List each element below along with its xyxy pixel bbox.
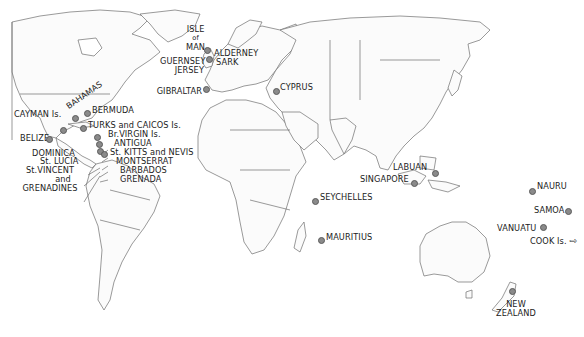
label-vanuatu: VANUATU [497,224,536,233]
label-grenada: GRENADA [120,175,161,184]
label-singapore: SINGAPORE [360,175,409,184]
label-samoa: SAMOA [534,206,564,215]
marker-belize[interactable] [46,136,53,143]
label-sark: SARK [216,58,238,67]
marker-nauru[interactable] [529,188,536,195]
label-seychelles: SEYCHELLES [320,193,372,202]
label-line: ISLE [186,25,205,34]
label-gibraltar: GIBRALTAR [150,87,202,96]
cook-label-text: COOK Is. [530,236,567,246]
label-nauru: NAURU [537,182,567,191]
label-cyprus: CYPRUS [280,83,313,92]
marker-gibraltar[interactable] [203,86,210,93]
marker-singapore[interactable] [411,180,418,187]
marker-samoa[interactable] [565,208,572,215]
marker-cyprus[interactable] [273,88,280,95]
label-labuan: LABUAN [393,163,427,172]
marker-bahamas[interactable] [72,115,79,122]
marker-bermuda[interactable] [84,110,91,117]
marker-channel-islands[interactable] [206,56,213,63]
label-new-zealand: NEW ZEALAND [496,300,536,318]
marker-mauritius[interactable] [318,237,325,244]
label-bermuda: BERMUDA [92,106,134,115]
label-mauritius: MAURITIUS [326,233,372,242]
label-line: GRENADINES [22,184,78,193]
marker-seychelles[interactable] [312,198,319,205]
marker-vanuatu[interactable] [540,224,547,231]
marker-montserrat[interactable] [101,151,108,158]
label-jersey: JERSEY [170,66,204,75]
label-line: MAN [186,43,205,52]
marker-turks-caicos[interactable] [80,125,87,132]
marker-isle-of-man[interactable] [204,47,211,54]
label-cayman: CAYMAN Is. [14,110,61,119]
marker-br-virgin[interactable] [94,134,101,141]
australia [420,222,490,282]
marker-antigua[interactable] [96,141,103,148]
marker-new-zealand[interactable] [509,288,516,295]
world-landmasses [0,0,584,337]
arrow-right-icon: ⇨ [569,236,577,246]
world-map: ISLE of MAN ALDERNEY GUERNSEY SARK JERSE… [0,0,584,337]
label-st-vincent: St.VINCENT and GRENADINES [22,166,78,193]
label-isle-of-man: ISLE of MAN [186,25,205,52]
marker-labuan[interactable] [432,170,439,177]
label-belize: BELIZE [20,134,49,143]
label-cook-islands: COOK Is. ⇨ [530,237,577,246]
label-line: ZEALAND [496,309,536,318]
marker-cayman[interactable] [60,127,67,134]
